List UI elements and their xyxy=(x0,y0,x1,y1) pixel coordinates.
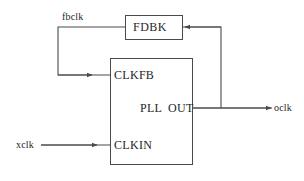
port-label-clkin: CLKIN xyxy=(114,139,152,151)
pll-block-label: PLL xyxy=(140,102,162,114)
fdbk-block-label: FDBK xyxy=(133,21,167,33)
signal-label-xclk: xclk xyxy=(16,140,34,150)
wire-out-to-fdbk xyxy=(182,27,221,108)
pll-block-diagram: FDBK PLL CLKFB CLKIN OUT fbclk xclk oclk xyxy=(0,0,304,181)
signal-label-fbclk: fbclk xyxy=(62,12,84,22)
signal-label-oclk: oclk xyxy=(274,103,292,113)
port-label-clkfb: CLKFB xyxy=(114,69,154,81)
port-label-out: OUT xyxy=(168,102,194,114)
